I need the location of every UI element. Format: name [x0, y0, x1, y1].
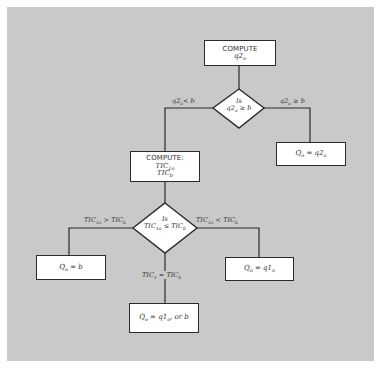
ticb-variable: TICb [157, 170, 173, 177]
decision-q2-text: Is q2o ≥ b [213, 98, 265, 113]
result-b-box: Qo = b [36, 255, 106, 280]
edge-label-tic-less: TIC1o < TICb [196, 216, 238, 224]
result-q2-text: Qo = q2o [296, 150, 327, 157]
result-q2-box: Qo = q2o [276, 142, 346, 166]
connector-tic-less [197, 228, 259, 257]
edge-label-tic-greater: TIC1o > TICb [84, 216, 126, 224]
decision-tic-text: Is TIC1o ≤ TICb [133, 216, 197, 231]
result-q1-box: Qo = q1o [225, 257, 294, 281]
connector-tic-greater [69, 228, 133, 255]
connector-q2-geq-b [264, 108, 310, 142]
result-either-box: Qo = q1o, or b [129, 303, 199, 333]
result-q1-text: Qo = q1o [244, 265, 275, 272]
result-either-text: Qo = q1o, or b [139, 314, 189, 321]
edge-label-q2-geq-b: q2o ≥ b [280, 97, 305, 105]
compute-tic-box: COMPUTE: TIC1o TICb [130, 151, 200, 182]
edge-label-tic-equal: TIC1 = TICb [141, 271, 182, 279]
q2-variable: q2o [234, 53, 246, 60]
edge-label-q2-less-b: q2o< b [172, 97, 195, 105]
connector-q2-less-b [165, 108, 213, 151]
compute-q2-box: COMPUTE q2o [204, 40, 276, 66]
result-b-text: Qo = b [59, 264, 83, 271]
